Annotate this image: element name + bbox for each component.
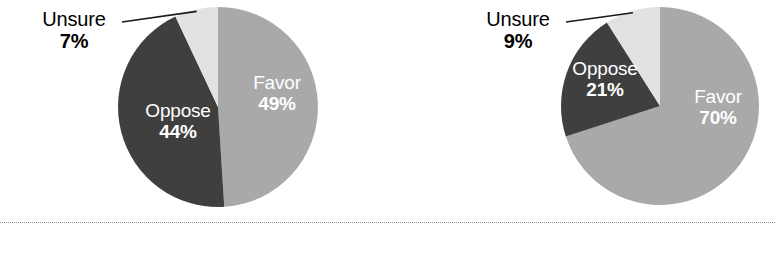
pie-right-slices [561, 7, 759, 205]
pie-left-slice-favor [218, 7, 318, 207]
pie-left-slices [118, 7, 318, 207]
dotted-rule [0, 222, 775, 224]
pie-charts-canvas [0, 0, 775, 255]
pie-chart-figure: Favor 49% Oppose 44% Unsure 7% Favor 70%… [0, 0, 775, 255]
